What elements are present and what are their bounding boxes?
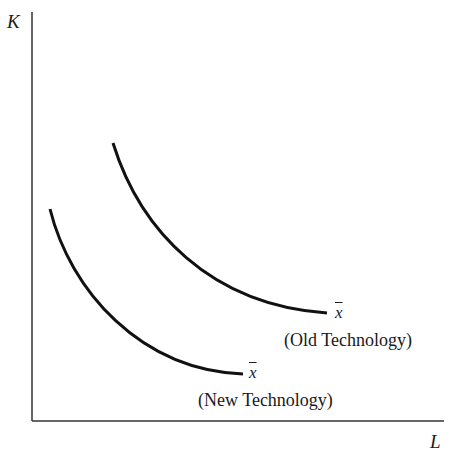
l-axis-label: L [430, 432, 441, 451]
isoquant-new-technology [50, 209, 243, 374]
new-output-symbol: x [249, 364, 257, 381]
old-technology-label: (Old Technology) [284, 331, 412, 349]
k-axis-label: K [7, 12, 20, 31]
new-technology-label: (New Technology) [198, 391, 333, 409]
old-output-symbol: x [335, 304, 343, 321]
isoquant-old-technology [113, 143, 327, 313]
